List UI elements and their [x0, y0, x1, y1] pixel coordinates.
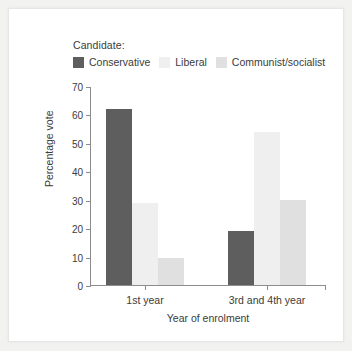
y-tick-label: 40: [72, 167, 83, 178]
y-tick-label: 0: [77, 281, 83, 292]
bar-3rd-and-4th-year-liberal: [254, 132, 280, 286]
chart-canvas: Candidate: Conservative Liberal Communis…: [9, 9, 343, 341]
legend-label-communist-socialist: Communist/socialist: [232, 56, 325, 68]
plot-area: 010203040506070 1st year3rd and 4th year: [90, 87, 326, 286]
bar-1st-year-communist-socialist: [158, 258, 184, 285]
legend-label-liberal: Liberal: [175, 56, 207, 68]
y-tick-mark: [86, 201, 90, 202]
y-tick-mark: [86, 144, 90, 145]
y-tick-label: 30: [72, 195, 83, 206]
chart-legend: Candidate: Conservative Liberal Communis…: [73, 39, 337, 68]
legend-swatch-liberal: [159, 57, 170, 68]
y-tick-label: 20: [72, 224, 83, 235]
legend-swatch-conservative: [73, 57, 84, 68]
x-axis-end-tick: [325, 286, 326, 290]
y-tick-mark: [86, 115, 90, 116]
legend-item-communist-socialist: Communist/socialist: [216, 56, 325, 68]
y-tick-mark: [86, 286, 90, 287]
y-tick-mark: [86, 87, 90, 88]
x-tick-mark: [267, 286, 268, 290]
legend-item-liberal: Liberal: [159, 56, 207, 68]
y-tick-mark: [86, 229, 90, 230]
bar-3rd-and-4th-year-communist-socialist: [280, 200, 306, 285]
y-tick-label: 50: [72, 138, 83, 149]
x-axis-title: Year of enrolment: [167, 312, 250, 324]
bar-3rd-and-4th-year-conservative: [228, 231, 254, 285]
legend-entries: Conservative Liberal Communist/socialist: [73, 56, 337, 68]
y-axis-title: Percentage vote: [43, 111, 55, 187]
y-axis-line: [90, 87, 91, 287]
legend-label-conservative: Conservative: [89, 56, 150, 68]
x-tick-label-1st-year: 1st year: [126, 294, 163, 306]
bar-1st-year-liberal: [132, 203, 158, 285]
legend-item-conservative: Conservative: [73, 56, 150, 68]
y-tick-label: 60: [72, 110, 83, 121]
y-tick-label: 10: [72, 252, 83, 263]
y-tick-mark: [86, 258, 90, 259]
y-tick-mark: [86, 172, 90, 173]
x-tick-mark: [145, 286, 146, 290]
bar-1st-year-conservative: [106, 109, 132, 285]
x-axis-line: [90, 285, 326, 286]
y-tick-label: 70: [72, 82, 83, 93]
legend-title: Candidate:: [73, 39, 337, 51]
legend-swatch-communist-socialist: [216, 57, 227, 68]
x-tick-label-3rd-and-4th-year: 3rd and 4th year: [229, 294, 305, 306]
figure-panel: Candidate: Conservative Liberal Communis…: [8, 8, 344, 342]
